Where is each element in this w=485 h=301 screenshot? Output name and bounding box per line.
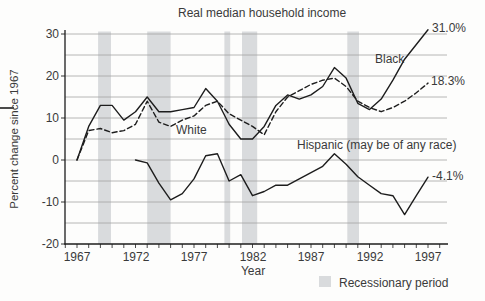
series-label-white: White bbox=[176, 123, 207, 137]
x-axis-label: Year bbox=[238, 264, 268, 278]
recession-band bbox=[224, 32, 230, 245]
x-tick-label: 1987 bbox=[296, 250, 326, 264]
end-value-label-black: 31.0% bbox=[432, 21, 466, 35]
recession-band bbox=[147, 32, 170, 245]
y-tick-label: 10 bbox=[29, 111, 59, 125]
recession-legend-label: Recessionary period bbox=[339, 276, 448, 290]
y-tick-label: 0 bbox=[29, 153, 59, 167]
x-tick-label: 1982 bbox=[238, 250, 268, 264]
y-axis-label: Percent change since 1967 bbox=[8, 39, 20, 239]
series-line-hispanic bbox=[136, 154, 429, 215]
chart-figure: Real median household income Percent cha… bbox=[0, 0, 485, 301]
chart-title: Real median household income bbox=[178, 6, 346, 20]
recession-band bbox=[242, 32, 257, 245]
x-tick-label: 1967 bbox=[62, 250, 92, 264]
y-tick-label: 30 bbox=[29, 27, 59, 41]
series-label-black: Black bbox=[375, 52, 404, 66]
y-tick-label: -20 bbox=[29, 237, 59, 251]
x-tick-label: 1997 bbox=[413, 250, 443, 264]
end-value-label-hispanic: -4.1% bbox=[432, 169, 463, 183]
series-label-hispanic: Hispanic (may be of any race) bbox=[297, 138, 456, 152]
recession-legend-swatch bbox=[319, 276, 331, 287]
x-tick-label: 1977 bbox=[179, 250, 209, 264]
y-tick-label: -10 bbox=[29, 195, 59, 209]
y-tick-label: 20 bbox=[29, 69, 59, 83]
x-tick-label: 1972 bbox=[121, 250, 151, 264]
recession-band bbox=[98, 32, 111, 245]
end-value-label-white: 18.3% bbox=[431, 74, 465, 88]
x-tick-label: 1992 bbox=[355, 250, 385, 264]
page-edge-mark bbox=[0, 107, 14, 109]
